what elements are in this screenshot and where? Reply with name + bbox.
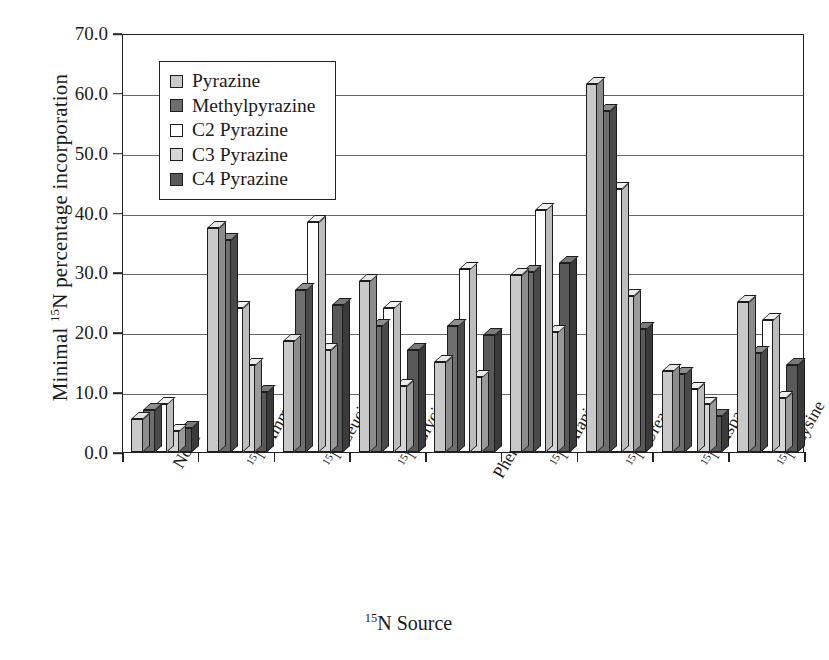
legend-item: C2 Pyrazine	[170, 118, 315, 143]
bar-side-face	[786, 392, 793, 452]
x-axis-title-text: 15N Source	[365, 612, 452, 634]
bar-side-face	[597, 78, 604, 452]
bar-front-face	[434, 362, 446, 452]
bar-front-face	[586, 84, 598, 452]
y-axis-tick-label: 60.0	[0, 83, 108, 105]
bar-side-face	[419, 344, 426, 452]
legend-item: C3 Pyrazine	[170, 143, 315, 168]
bar-side-face	[749, 296, 756, 452]
y-axis-tick-mark	[113, 213, 122, 215]
bar-side-face	[319, 215, 326, 452]
bar-side-face	[673, 365, 680, 452]
bar-side-face	[267, 386, 274, 452]
bar-front-face	[131, 419, 143, 452]
bar-side-face	[231, 233, 238, 452]
x-axis-tick-mark	[577, 452, 579, 462]
y-axis-tick-mark	[113, 153, 122, 155]
y-axis-tick-label: 30.0	[0, 262, 108, 284]
bar-side-face	[167, 398, 174, 452]
bar-side-face	[219, 221, 226, 452]
bar-front-face	[737, 302, 749, 452]
bar-side-face	[558, 326, 565, 452]
bar-side-face	[610, 105, 617, 452]
bar-side-face	[382, 320, 389, 452]
bar-side-face	[634, 290, 641, 452]
bar	[359, 281, 371, 452]
bar-side-face	[255, 359, 262, 452]
bar-front-face	[283, 341, 295, 452]
bar-front-face	[207, 228, 219, 452]
bar-group	[578, 35, 654, 452]
bar	[434, 362, 446, 452]
bar-side-face	[243, 302, 250, 452]
y-axis-tick-label: 10.0	[0, 382, 108, 404]
bar	[131, 419, 143, 452]
bar-group	[729, 35, 805, 452]
legend-item: Pyrazine	[170, 69, 315, 94]
y-axis-tick-mark	[113, 33, 122, 35]
legend: PyrazineMethylpyrazineC2 PyrazineC3 Pyra…	[159, 61, 336, 200]
x-axis-tick-mark	[198, 452, 200, 462]
bar-side-face	[458, 320, 465, 452]
bar-side-face	[306, 284, 313, 452]
bar-side-face	[773, 314, 780, 452]
bar-side-face	[522, 269, 529, 452]
bar	[737, 302, 749, 452]
bar-side-face	[446, 356, 453, 452]
legend-item-label: C4 Pyrazine	[192, 168, 288, 190]
x-axis-tick-mark	[652, 452, 654, 462]
y-axis-tick-mark	[113, 392, 122, 394]
bar-side-face	[622, 182, 629, 452]
bar-side-face	[570, 257, 577, 452]
bar	[662, 371, 674, 452]
bar-side-face	[470, 263, 477, 452]
bar-side-face	[698, 383, 705, 452]
x-axis-tick-mark	[804, 452, 806, 462]
x-axis-tick-mark	[122, 452, 124, 462]
bar-side-face	[482, 371, 489, 452]
legend-item-label: Pyrazine	[192, 70, 260, 92]
x-axis-tick-mark	[425, 452, 427, 462]
bar	[510, 275, 522, 452]
bar-front-face	[662, 371, 674, 452]
bar-side-face	[155, 404, 162, 452]
y-axis-title-text: Minimal 15N percentage incorporation	[48, 74, 72, 402]
y-axis-tick-mark	[113, 452, 122, 454]
bar-side-face	[343, 299, 350, 452]
legend-item-label: C2 Pyrazine	[192, 119, 288, 141]
bar-side-face	[370, 275, 377, 452]
bar	[283, 341, 295, 452]
bar-side-face	[495, 329, 502, 452]
y-axis-tick-label: 50.0	[0, 143, 108, 165]
bar-front-face	[510, 275, 522, 452]
bar-side-face	[294, 335, 301, 452]
bar-side-face	[685, 368, 692, 452]
bar-group	[502, 35, 578, 452]
y-axis-tick-label: 20.0	[0, 322, 108, 344]
bar	[586, 84, 598, 452]
bar-side-face	[546, 203, 553, 452]
legend-item-label: C3 Pyrazine	[192, 144, 288, 166]
bar-side-face	[761, 347, 768, 452]
x-axis-title: 15N Source	[0, 612, 817, 635]
legend-swatch-icon	[170, 173, 183, 186]
bar-side-face	[798, 359, 805, 452]
bar-group	[653, 35, 729, 452]
bar	[207, 228, 219, 452]
y-axis-tick-mark	[113, 93, 122, 95]
bar-side-face	[143, 413, 150, 452]
bar-side-face	[534, 266, 541, 452]
legend-item-label: Methylpyrazine	[192, 95, 315, 117]
y-axis-tick-label: 70.0	[0, 23, 108, 45]
plot-area: PyrazineMethylpyrazineC2 PyrazineC3 Pyra…	[122, 34, 804, 453]
bar-side-face	[646, 323, 653, 452]
bar-group	[350, 35, 426, 452]
x-axis-tick-mark	[728, 452, 730, 462]
legend-swatch-icon	[170, 75, 183, 88]
bar-side-face	[722, 410, 729, 452]
bar-side-face	[394, 302, 401, 452]
bar-group	[426, 35, 502, 452]
bar-side-face	[407, 380, 414, 452]
y-axis-tick-label: 0.0	[0, 442, 108, 464]
